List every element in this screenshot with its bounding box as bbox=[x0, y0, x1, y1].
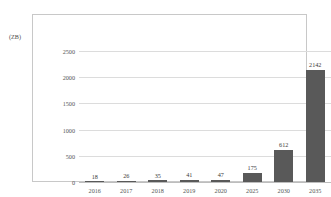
plot-area: 25002000150010005000 1820162620173520184… bbox=[79, 51, 331, 182]
y-axis-tick-label: 500 bbox=[66, 152, 75, 159]
y-axis-tick-label: 1500 bbox=[63, 100, 75, 107]
bar-value-label: 47 bbox=[218, 171, 224, 178]
plot-frame: 25002000150010005000 1820162620173520184… bbox=[32, 14, 307, 182]
x-axis-tick-label: 2018 bbox=[152, 187, 164, 194]
bar-value-label: 35 bbox=[155, 172, 161, 179]
bar-group: 472020 bbox=[205, 51, 237, 182]
bar-2016[interactable] bbox=[85, 181, 104, 182]
bar-group: 262017 bbox=[111, 51, 143, 182]
bar-value-label: 41 bbox=[186, 171, 192, 178]
bar-value-label: 18 bbox=[92, 173, 98, 180]
x-axis-tick-label: 2030 bbox=[278, 187, 290, 194]
y-axis-tick-label: 0 bbox=[72, 179, 75, 186]
y-axis-tick-label: 2000 bbox=[63, 74, 75, 81]
x-axis-tick-label: 2016 bbox=[89, 187, 101, 194]
y-axis-tick-label: 1000 bbox=[63, 126, 75, 133]
bar-2035[interactable] bbox=[306, 70, 325, 182]
bar-2018[interactable] bbox=[148, 180, 167, 182]
bar-group: 352018 bbox=[142, 51, 174, 182]
bar-value-label: 612 bbox=[279, 141, 288, 148]
x-axis-tick-label: 2017 bbox=[120, 187, 132, 194]
x-axis-tick-label: 2019 bbox=[183, 187, 195, 194]
bar-group: 21422035 bbox=[300, 51, 331, 182]
gridline: 0 bbox=[79, 182, 331, 183]
bar-group: 6122030 bbox=[268, 51, 300, 182]
y-axis-unit-label: (ZB) bbox=[9, 33, 21, 41]
x-axis-tick-label: 2035 bbox=[309, 187, 321, 194]
bar-value-label: 26 bbox=[123, 172, 129, 179]
x-axis-tick-label: 2025 bbox=[246, 187, 258, 194]
bar-2019[interactable] bbox=[180, 180, 199, 182]
bar-2030[interactable] bbox=[274, 150, 293, 182]
bar-2025[interactable] bbox=[243, 173, 262, 182]
bar-2017[interactable] bbox=[117, 181, 136, 182]
bar-group: 182016 bbox=[79, 51, 111, 182]
bar-value-label: 175 bbox=[248, 164, 257, 171]
bar-value-label: 2142 bbox=[309, 61, 321, 68]
bar-2020[interactable] bbox=[211, 180, 230, 182]
bars-group: 1820162620173520184120194720201752025612… bbox=[79, 51, 331, 182]
y-axis-tick-label: 2500 bbox=[63, 48, 75, 55]
x-axis-tick-label: 2020 bbox=[215, 187, 227, 194]
bar-group: 1752025 bbox=[237, 51, 269, 182]
bar-group: 412019 bbox=[174, 51, 206, 182]
top-caption-text bbox=[4, 0, 124, 7]
